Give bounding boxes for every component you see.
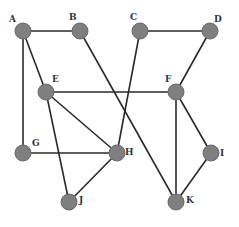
edge-h-j (69, 153, 117, 202)
node-circle (109, 145, 125, 161)
edge-d-f (176, 31, 210, 92)
node-g: G (15, 138, 40, 161)
node-circle (202, 23, 218, 39)
node-circle (15, 23, 31, 39)
node-circle (203, 145, 219, 161)
node-label: F (165, 74, 172, 84)
node-label: K (186, 195, 195, 205)
node-f: F (165, 74, 184, 100)
node-c: C (130, 12, 148, 39)
node-label: A (8, 14, 17, 24)
node-label: D (214, 14, 222, 24)
node-j: J (61, 194, 83, 210)
node-h: H (109, 145, 134, 161)
node-d: D (202, 14, 222, 39)
node-label: E (52, 74, 59, 84)
node-b: B (69, 12, 88, 39)
edge-a-e (23, 31, 46, 92)
node-label: B (69, 12, 77, 22)
graph-edges (23, 31, 211, 202)
node-k: K (168, 194, 195, 210)
node-circle (38, 84, 54, 100)
node-label: C (130, 12, 137, 22)
node-circle (72, 23, 88, 39)
node-label: G (32, 138, 40, 148)
graph-diagram: ABCDEFGHIJK (0, 0, 239, 227)
node-label: H (125, 147, 134, 157)
edge-f-i (176, 92, 211, 153)
node-label: I (220, 148, 224, 158)
node-label: J (78, 195, 83, 205)
node-a: A (8, 14, 31, 39)
node-circle (168, 84, 184, 100)
node-circle (168, 194, 184, 210)
node-i: I (203, 145, 224, 161)
node-circle (132, 23, 148, 39)
node-circle (61, 194, 77, 210)
node-circle (15, 145, 31, 161)
